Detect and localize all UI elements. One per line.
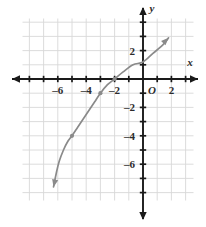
svg-text:–2: –2	[108, 84, 121, 96]
svg-text:–2: –2	[123, 101, 136, 113]
svg-text:O: O	[148, 84, 156, 96]
grid-lines	[23, 19, 194, 201]
svg-text:–4: –4	[123, 130, 136, 142]
svg-text:–6: –6	[51, 84, 64, 96]
svg-text:x: x	[186, 56, 193, 68]
svg-text:y: y	[148, 2, 155, 14]
svg-text:–4: –4	[80, 84, 93, 96]
axis-tick-labels: –6–4–222–2–4–6Oxy	[51, 2, 193, 170]
svg-text:2: 2	[130, 45, 136, 57]
svg-text:–6: –6	[123, 158, 136, 170]
svg-text:2: 2	[169, 84, 175, 96]
coordinate-graph: –6–4–222–2–4–6Oxy	[0, 0, 206, 227]
axes	[12, 7, 198, 220]
